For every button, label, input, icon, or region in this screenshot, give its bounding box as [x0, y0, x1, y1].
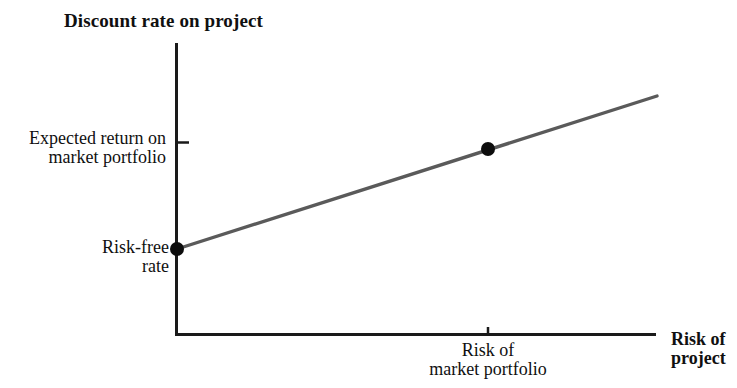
y-axis-label-market-portfolio-line2: market portfolio — [29, 148, 166, 167]
chart-plot-area — [0, 0, 737, 388]
x-axis-label-market-portfolio: Risk of market portfolio — [429, 341, 546, 380]
y-axis-label-risk-free-rate: Risk-free rate — [102, 238, 169, 277]
x-axis-label-market-portfolio-line1: Risk of — [429, 341, 546, 360]
x-axis-title: Risk of project — [671, 330, 726, 369]
x-axis-title-line1: Risk of — [671, 330, 726, 349]
chart-title: Discount rate on project — [64, 11, 263, 32]
chart-figure: Discount rate on project Expected return… — [0, 0, 737, 388]
x-axis-label-market-portfolio-line2: market portfolio — [429, 360, 546, 379]
y-axis-label-market-portfolio: Expected return on market portfolio — [29, 129, 166, 168]
risk-free-rate-point — [170, 242, 184, 256]
y-axis-label-risk-free-rate-line2: rate — [102, 257, 169, 276]
security-market-line — [177, 96, 657, 249]
x-axis-title-line2: project — [671, 349, 726, 368]
y-axis-label-market-portfolio-line1: Expected return on — [29, 129, 166, 148]
market-portfolio-point — [481, 142, 495, 156]
y-axis-label-risk-free-rate-line1: Risk-free — [102, 238, 169, 257]
